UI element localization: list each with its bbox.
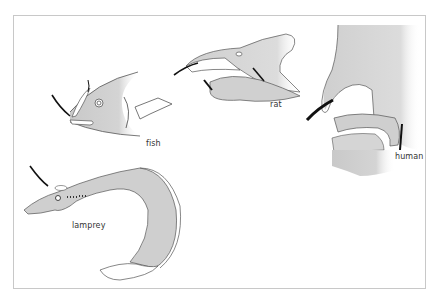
label-human: human (395, 152, 423, 161)
label-rat: rat (270, 100, 282, 109)
label-fish: fish (146, 139, 161, 148)
anatomy-illustrations (0, 0, 441, 302)
rat-illustration (174, 34, 300, 101)
fish-illustration (52, 72, 172, 136)
label-lamprey: lamprey (72, 221, 105, 230)
